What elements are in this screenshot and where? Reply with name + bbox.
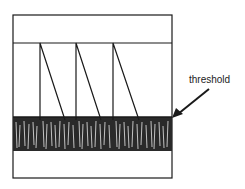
- spike-3: [113, 43, 139, 120]
- arrow-icon: [172, 89, 209, 118]
- spikes: [40, 43, 139, 120]
- spike-2: [76, 43, 101, 120]
- threshold-label: threshold: [189, 74, 230, 85]
- outer-frame: [13, 15, 172, 178]
- threshold-diagram: [0, 0, 245, 189]
- noise-band: [13, 117, 172, 151]
- spike-1: [40, 43, 65, 120]
